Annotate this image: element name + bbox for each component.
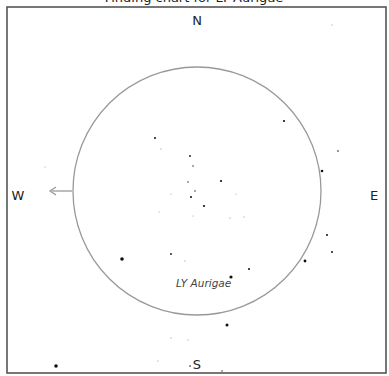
star (220, 180, 222, 182)
star (54, 364, 58, 368)
star (283, 120, 285, 122)
star (190, 196, 192, 198)
star (194, 190, 195, 191)
star (193, 216, 194, 217)
chart-frame (7, 7, 386, 373)
star (321, 170, 324, 173)
star (331, 251, 333, 253)
star (203, 205, 205, 207)
star (157, 360, 158, 361)
star (189, 155, 191, 157)
star (229, 217, 230, 218)
star (171, 194, 172, 195)
star (326, 234, 328, 236)
star (331, 24, 332, 25)
star (337, 150, 339, 152)
star (236, 194, 237, 195)
star (159, 212, 160, 213)
star (120, 257, 124, 261)
star (160, 148, 161, 149)
star (184, 260, 185, 261)
north-label: N (192, 13, 202, 28)
chart-title: Finding chart for LY Aurigae (105, 0, 284, 5)
star (243, 216, 244, 217)
star (170, 253, 172, 255)
star (189, 365, 191, 367)
star (187, 181, 188, 182)
star (304, 260, 307, 263)
star (45, 167, 46, 168)
star (154, 137, 156, 139)
finder-chart: Finding chart for LY Aurigae N S E W LY … (0, 0, 389, 376)
star (192, 165, 193, 166)
south-label: S (193, 357, 201, 372)
west-label: W (12, 188, 25, 203)
target-star-label: LY Aurigae (176, 277, 231, 289)
star (170, 337, 171, 338)
star (221, 370, 222, 371)
star (226, 324, 229, 327)
star (187, 339, 188, 340)
east-label: E (370, 188, 378, 203)
star (248, 268, 250, 270)
